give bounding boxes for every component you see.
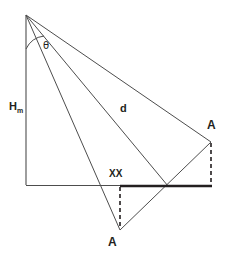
theta-arc: [26, 36, 44, 49]
geometry-diagram: θ Hm d A A XX: [0, 0, 231, 258]
height-subscript: m: [17, 107, 23, 114]
point-label-a-right: A: [207, 119, 216, 131]
distance-label: d: [120, 103, 127, 114]
theta-label: θ: [43, 41, 49, 51]
point-label-a-bottom: A: [108, 236, 117, 248]
height-label: Hm: [9, 101, 23, 114]
diagram-canvas: [0, 0, 231, 258]
segment-label-xx: XX: [109, 169, 123, 179]
height-symbol: H: [9, 100, 17, 112]
